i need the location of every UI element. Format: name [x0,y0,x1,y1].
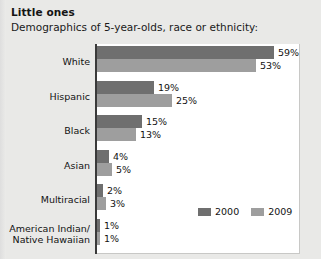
category-label: Hispanic [0,91,90,102]
bar-2000: 59% [97,46,321,59]
category-label: Black [0,125,90,136]
bar-rect-2000 [97,115,142,128]
bar-2000: 15% [97,115,321,128]
legend-label-2009: 2009 [268,207,292,217]
chart-figure: Little ones Demographics of 5-year-olds,… [0,0,321,259]
bar-value-label: 5% [116,164,131,175]
bar-rect-2000 [97,81,154,94]
bar-2000: 19% [97,81,321,94]
bar-value-label: 15% [146,116,167,127]
category-label: American Indian/Native Hawaiian [0,223,90,246]
bar-rect-2009 [97,128,136,141]
category-label: Multiracial [0,194,90,205]
legend-item-2009: 2009 [251,207,292,217]
legend-swatch-2009 [251,208,264,216]
bar-2000: 4% [97,150,321,163]
bar-rect-2009 [97,197,106,210]
category-label: White [0,56,90,67]
bar-2009: 1% [97,232,321,245]
bar-value-label: 19% [158,82,179,93]
bar-2000: 2% [97,184,321,197]
legend-label-2000: 2000 [215,207,239,217]
bar-rect-2000 [97,150,109,163]
bar-pair: 59%53% [97,46,321,79]
chart-header: Little ones Demographics of 5-year-olds,… [11,6,311,34]
bar-pair: 4%5% [97,150,321,183]
bar-rect-2009 [97,94,172,107]
bar-rect-2009 [97,59,256,72]
bar-2009: 5% [97,163,321,176]
bar-value-label: 13% [140,129,161,140]
bar-value-label: 59% [278,47,299,58]
category-label: Asian [0,160,90,171]
bar-pair: 19%25% [97,81,321,114]
legend-swatch-2000 [198,208,211,216]
bar-value-label: 25% [176,95,197,106]
bar-value-label: 4% [113,151,128,162]
bar-rect-2009 [97,163,112,176]
bar-value-label: 53% [260,60,281,71]
bar-pair: 1%1% [97,219,321,252]
bar-2009: 53% [97,59,321,72]
legend-item-2000: 2000 [198,207,239,217]
bar-value-label: 1% [104,220,119,231]
bar-rect-2000 [97,184,103,197]
chart-row: American Indian/Native Hawaiian1%1% [0,219,321,252]
chart-row: Hispanic19%25% [0,81,321,114]
bar-value-label: 1% [104,233,119,244]
bar-rect-2009 [97,232,100,245]
bar-2000: 1% [97,219,321,232]
bar-rect-2000 [97,46,274,59]
chart-title: Little ones [11,6,311,19]
chart-row: Black15%13% [0,115,321,148]
chart-legend: 20002009 [198,207,292,217]
chart-subtitle: Demographics of 5-year-olds, race or eth… [11,20,311,34]
chart-row: White59%53% [0,46,321,79]
category-axis-line [95,44,97,254]
bar-2009: 25% [97,94,321,107]
bar-2009: 13% [97,128,321,141]
chart-row: Asian4%5% [0,150,321,183]
bar-value-label: 2% [107,185,122,196]
bar-rect-2000 [97,219,100,232]
bar-value-label: 3% [110,198,125,209]
bar-pair: 15%13% [97,115,321,148]
